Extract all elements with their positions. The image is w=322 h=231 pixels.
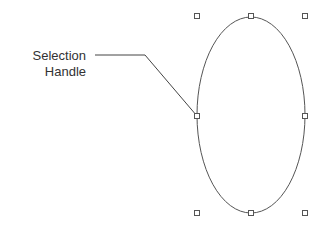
- handle-top-middle[interactable]: [249, 14, 254, 19]
- diagram-canvas: [0, 0, 322, 231]
- handle-bottom-right[interactable]: [303, 211, 308, 216]
- handle-middle-left[interactable]: [195, 114, 200, 119]
- handle-bottom-left[interactable]: [195, 211, 200, 216]
- leader-line: [95, 55, 197, 116]
- handle-top-right[interactable]: [303, 14, 308, 19]
- handle-bottom-middle[interactable]: [249, 211, 254, 216]
- ellipse-shape[interactable]: [197, 17, 305, 213]
- handle-top-left[interactable]: [195, 14, 200, 19]
- handle-middle-right[interactable]: [303, 114, 308, 119]
